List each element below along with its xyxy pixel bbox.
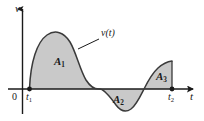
- v-axis-label: v: [15, 3, 20, 14]
- area-label-a3-subscript: 3: [163, 76, 167, 84]
- figure-container: v t 0 t1 t2 v(t) A1 A2 A3: [0, 0, 204, 121]
- curve-label: v(t): [101, 28, 115, 38]
- t-axis-label: t: [190, 91, 193, 102]
- origin-label: 0: [12, 92, 17, 102]
- area-label-a2-subscript: 2: [120, 99, 124, 107]
- area-label-a1-subscript: 1: [61, 61, 65, 69]
- curve-label-leader-line: [78, 39, 99, 49]
- t2-tick-label: t2: [168, 92, 174, 102]
- t1-tick-label: t1: [26, 92, 32, 102]
- area-label-a2: A2: [113, 94, 124, 105]
- area-label-a3: A3: [156, 71, 167, 82]
- t1-tick-subscript: 1: [29, 96, 32, 103]
- curve-label-paren-close: ): [112, 27, 115, 38]
- area-label-a1: A1: [54, 56, 65, 67]
- t2-tick-subscript: 2: [171, 96, 174, 103]
